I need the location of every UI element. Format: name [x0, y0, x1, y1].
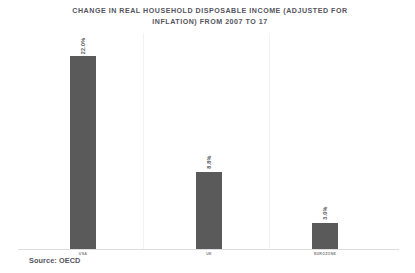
bar-usa	[70, 56, 96, 249]
bar-chart-figure: CHANGE IN REAL HOUSEHOLD DISPOSABLE INCO…	[0, 0, 415, 273]
gridline-vertical	[269, 33, 270, 250]
gridline-vertical	[143, 33, 144, 250]
bar-value-eurozone: 3.0%	[322, 197, 328, 229]
chart-title-line-1: CHANGE IN REAL HOUSEHOLD DISPOSABLE INCO…	[36, 6, 384, 17]
bar-value-uk: 8.8%	[206, 146, 212, 178]
category-label-eurozone: EUROZONE	[305, 252, 345, 256]
category-label-uk: UK	[189, 252, 229, 256]
chart-title-line-2: INFLATION) FROM 2007 TO 17	[36, 17, 384, 28]
x-axis-line	[18, 249, 399, 250]
chart-title: CHANGE IN REAL HOUSEHOLD DISPOSABLE INCO…	[36, 6, 384, 27]
bar-value-usa: 22.0%	[80, 30, 86, 62]
source-note: Source: OECD	[29, 256, 80, 265]
bar-uk	[196, 172, 222, 249]
